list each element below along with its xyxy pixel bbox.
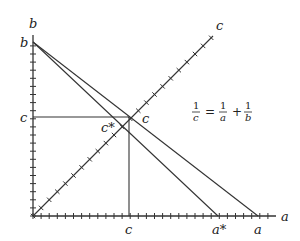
formula: 1 c = 1 a + 1 b: [192, 100, 252, 123]
formula-lhs-den: c: [193, 112, 199, 123]
a-point-label: a: [254, 222, 262, 237]
formula-t1-den: a: [220, 112, 226, 123]
x-axis-label: a: [281, 209, 289, 224]
c-x-label: c: [125, 222, 133, 237]
formula-lhs-num: 1: [193, 100, 199, 111]
line-b-to-a-star: [33, 42, 218, 216]
c-star-label: c*: [101, 120, 115, 135]
harmonic-sum-diagram: b a c b c c c* c a* a 1 c = 1 a + 1 b: [0, 0, 300, 241]
formula-equals: =: [205, 105, 215, 119]
c-y-label: c: [20, 110, 28, 125]
formula-t2-den: b: [245, 112, 251, 123]
b-point-label: b: [20, 35, 28, 50]
line-b-to-a: [33, 42, 258, 216]
y-axis-label: b: [29, 16, 37, 31]
a-star-label: a*: [212, 222, 227, 237]
formula-t2-num: 1: [245, 100, 251, 111]
formula-plus: +: [232, 105, 242, 119]
diagonal-axis-label: c: [216, 18, 224, 33]
formula-t1-num: 1: [220, 100, 226, 111]
c-point-label: c: [142, 111, 150, 126]
